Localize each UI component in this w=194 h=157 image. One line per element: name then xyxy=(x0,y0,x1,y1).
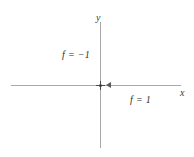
origin-arrow-icon xyxy=(106,82,111,88)
origin-tick-down xyxy=(100,87,101,90)
coordinate-axes-figure: x y f = −1 f = 1 xyxy=(0,0,194,157)
origin-marker xyxy=(96,81,105,90)
origin-tick-right xyxy=(102,85,105,86)
origin-tick-left xyxy=(96,85,99,86)
label-f-positive-one: f = 1 xyxy=(130,95,151,105)
x-axis-label: x xyxy=(180,88,184,98)
y-axis-label: y xyxy=(96,13,100,23)
origin-tick-up xyxy=(100,81,101,84)
label-f-negative-one: f = −1 xyxy=(62,50,90,60)
